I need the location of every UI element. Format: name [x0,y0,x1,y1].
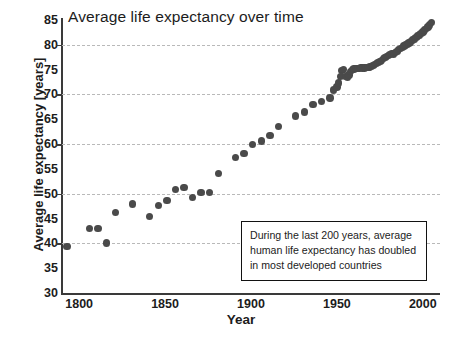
data-point [232,154,239,161]
data-point [266,132,273,139]
y-tick-label-55: 55 [24,162,58,176]
x-axis-spine [61,293,440,295]
data-point [249,141,256,148]
data-point [103,239,110,246]
y-tick-mark-60 [56,144,61,146]
data-point [428,19,435,26]
y-tick-label-65: 65 [24,112,58,126]
data-point [258,137,265,144]
data-point [63,243,70,250]
y-tick-label-60: 60 [24,137,58,151]
y-tick-label-40: 40 [24,236,58,250]
y-tick-label-70: 70 [24,87,58,101]
data-point [86,225,93,232]
data-point [189,194,196,201]
x-tick-label-1800: 1800 [49,297,109,311]
x-tick-label-1900: 1900 [221,297,281,311]
data-point [318,98,325,105]
x-tick-label-2000: 2000 [393,297,449,311]
y-tick-mark-70 [56,94,61,96]
data-point [146,213,153,220]
data-point [129,200,136,207]
data-point [155,202,162,209]
annotation-line-1: During the last 200 years, average [250,228,419,243]
data-point [197,189,204,196]
data-point [163,197,170,204]
y-tick-label-85: 85 [24,13,58,27]
y-tick-label-45: 45 [24,212,58,226]
data-point [301,108,308,115]
data-point [309,101,316,108]
annotation-line-2: human life expectancy has doubled [250,243,419,258]
data-point [292,112,299,119]
data-point [94,225,101,232]
y-tick-label-35: 35 [24,261,58,275]
data-point [180,184,187,191]
y-tick-label-75: 75 [24,63,58,77]
y-tick-mark-50 [56,194,61,196]
data-point [172,186,179,193]
data-point [112,209,119,216]
data-point [215,170,222,177]
x-tick-label-1950: 1950 [307,297,367,311]
x-axis-label: Year [78,312,404,327]
data-point [240,150,247,157]
y-tick-label-50: 50 [24,187,58,201]
chart-figure: Average life expectancy over time Averag… [0,0,449,339]
y-tick-mark-80 [56,45,61,47]
annotation-line-3: in most developed countries [250,258,419,273]
y-tick-mark-40 [56,243,61,245]
annotation-box: During the last 200 years, average human… [241,221,427,281]
x-tick-label-1850: 1850 [135,297,195,311]
data-point [275,123,282,130]
data-point [326,94,333,101]
y-tick-label-80: 80 [24,38,58,52]
data-point [206,189,213,196]
data-point [335,79,342,86]
